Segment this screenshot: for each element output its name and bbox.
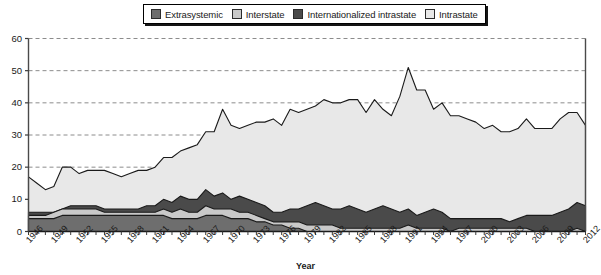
y-axis-tick-label: 40 xyxy=(2,97,22,108)
legend-swatch-icon xyxy=(232,9,242,19)
legend-swatch-icon xyxy=(425,9,435,19)
chart-legend: ExtrasystemicInterstateInternationalized… xyxy=(143,4,486,24)
y-axis-tick-label: 20 xyxy=(2,161,22,172)
area-series-group xyxy=(29,67,586,231)
legend-item: Internationalized intrastate xyxy=(293,9,416,20)
legend-item: Intrastate xyxy=(425,9,478,20)
legend-item: Interstate xyxy=(232,9,285,20)
y-axis-tick-label: 60 xyxy=(2,33,22,44)
legend-swatch-icon xyxy=(151,9,161,19)
y-axis-tick-label: 30 xyxy=(2,129,22,140)
y-axis-tick-label: 50 xyxy=(2,65,22,76)
legend-label: Interstate xyxy=(246,9,285,20)
y-axis-tick-label: 0 xyxy=(2,226,22,237)
legend-swatch-icon xyxy=(293,9,303,19)
legend-label: Internationalized intrastate xyxy=(307,9,416,20)
y-axis-tick-label: 10 xyxy=(2,193,22,204)
legend-item: Extrasystemic xyxy=(151,9,223,20)
x-axis-title: Year xyxy=(296,261,315,271)
legend-label: Intrastate xyxy=(439,9,478,20)
legend-label: Extrasystemic xyxy=(165,9,223,20)
